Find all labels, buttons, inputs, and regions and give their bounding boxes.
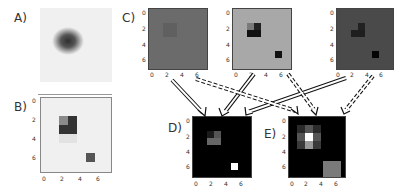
arrow-heads xyxy=(198,106,350,116)
arrows-overlay xyxy=(0,0,406,192)
